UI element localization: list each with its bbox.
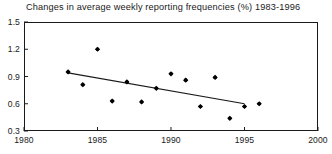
x-axis-tick-label: 1995 (225, 135, 265, 145)
y-axis-tick-label: 0.6 (0, 99, 20, 109)
x-axis-tick-label: 1985 (78, 135, 118, 145)
chart-container: Changes in average weekly reporting freq… (0, 0, 332, 154)
chart-canvas (0, 0, 332, 154)
x-axis-tick-label: 1990 (151, 135, 191, 145)
data-point (139, 99, 144, 104)
data-point (154, 86, 159, 91)
y-axis-tick-label: 1.2 (0, 44, 20, 54)
data-point-markers (66, 47, 262, 121)
data-point (242, 104, 247, 109)
y-axis-tick-label: 0.9 (0, 72, 20, 82)
data-point (257, 101, 262, 106)
x-axis-tick-label: 1980 (4, 135, 44, 145)
data-point (213, 75, 218, 80)
y-axis-tick-label: 1.5 (0, 17, 20, 27)
data-point (198, 104, 203, 109)
data-point (183, 78, 188, 83)
data-point (168, 71, 173, 76)
x-axis-tick-label: 2000 (298, 135, 332, 145)
tick-marks (24, 22, 318, 131)
data-point (80, 82, 85, 87)
data-point (227, 116, 232, 121)
data-point (110, 98, 115, 103)
data-point (95, 47, 100, 52)
